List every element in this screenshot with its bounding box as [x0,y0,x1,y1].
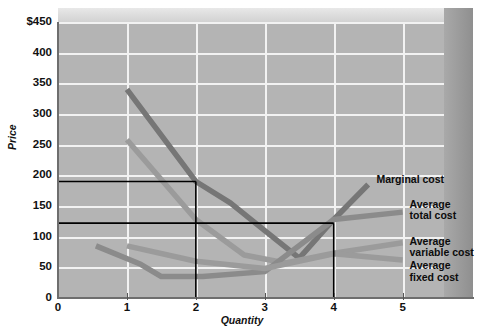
x-axis-tick [334,293,336,300]
plot-area [58,22,444,298]
y-axis-tick-label: 200 [33,168,52,180]
plot-bevel-top [58,8,473,22]
y-axis-tick-label: 150 [33,199,52,211]
x-axis-tick-label: 4 [322,301,346,313]
y-axis-tick-label: 400 [33,46,52,58]
x-axis-tick [127,293,129,300]
x-axis-tick-label: 0 [46,301,70,313]
curve-average-total-cost [127,140,403,263]
y-axis-title: Price [6,124,18,150]
y-axis-tick-label: 100 [33,230,52,242]
curve-marginal-cost [127,89,368,258]
x-axis-tick [265,293,267,300]
x-axis-tick [196,293,198,300]
average-fixed-cost-label: Average fixed cost [410,260,459,283]
marginal-cost-label: Marginal cost [376,174,444,186]
x-axis-tick-label: 3 [253,301,277,313]
x-axis-title: Quantity [0,314,484,326]
x-axis-tick-label: 5 [391,301,415,313]
y-axis-tick-label: 350 [33,76,52,88]
average-variable-cost-label: Average variable cost [410,236,474,259]
y-axis-tick-label: 250 [33,138,52,150]
x-axis-tick [403,293,405,300]
x-axis-tick-label: 2 [184,301,208,313]
y-axis-tick-label: 50 [39,260,52,272]
y-axis-tick-label: $450 [26,15,52,27]
y-axis-line [57,22,59,298]
cost-curves [58,22,444,298]
x-axis-tick-label: 1 [115,301,139,313]
y-axis-tick-label: 300 [33,107,52,119]
average-total-cost-label: Average total cost [410,199,457,222]
y-axis-tick-labels: $450400350300250200150100500 [0,0,52,330]
chart-figure: $450400350300250200150100500 012345 Pric… [0,0,484,330]
